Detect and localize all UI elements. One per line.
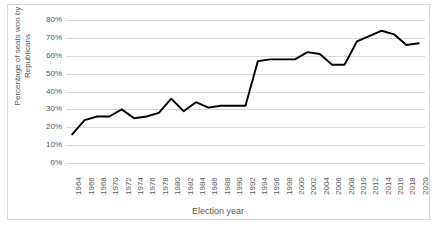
y-axis-tick-label: 30% (46, 105, 62, 113)
y-axis-tick-label: 50% (46, 70, 62, 78)
x-axis-tick-label: 2002 (310, 177, 318, 195)
y-axis-tick-label: 70% (46, 34, 62, 42)
gridline (66, 163, 425, 164)
y-axis-tick-label: 10% (46, 141, 62, 149)
plot-area (66, 20, 425, 163)
x-axis-tick-label: 1974 (137, 177, 145, 195)
x-axis-tick-label: 2018 (409, 177, 417, 195)
x-axis-tick-label: 1984 (199, 177, 207, 195)
x-axis-tick-label: 1976 (149, 177, 157, 195)
series-polyline (72, 31, 419, 135)
x-axis-tick-label: 2006 (335, 177, 343, 195)
x-axis-tick-label: 1966 (88, 177, 96, 195)
y-axis-tick-label: 0% (50, 159, 62, 167)
y-axis-tick-label: 80% (46, 16, 62, 24)
x-axis-tick-label: 1980 (174, 177, 182, 195)
x-axis-tick-label: 1982 (187, 177, 195, 195)
y-axis-tick-label: 40% (46, 88, 62, 96)
y-axis-tick-label: 60% (46, 52, 62, 60)
x-axis-tick-label: 1996 (273, 177, 281, 195)
x-axis-tick-label: 2000 (298, 177, 306, 195)
x-axis-tick-labels: 1964196619681970197219741976197819801982… (66, 165, 425, 205)
x-axis-tick-label: 2010 (360, 177, 368, 195)
x-axis-tick-label: 2008 (348, 177, 356, 195)
x-axis-tick-label: 1972 (125, 177, 133, 195)
y-axis-tick-label: 20% (46, 123, 62, 131)
x-axis-tick-label: 2004 (323, 177, 331, 195)
x-axis-tick-label: 2014 (385, 177, 393, 195)
x-axis-tick-label: 1968 (100, 177, 108, 195)
x-axis-tick-label: 1992 (249, 177, 257, 195)
x-axis-tick-label: 1994 (261, 177, 269, 195)
x-axis-tick-label: 2012 (372, 177, 380, 195)
x-axis-tick-label: 1990 (236, 177, 244, 195)
x-axis-tick-label: 2016 (397, 177, 405, 195)
x-axis-tick-label: 1978 (162, 177, 170, 195)
data-series-line (66, 20, 425, 163)
x-axis-title: Election year (0, 206, 436, 216)
x-axis-tick-label: 1964 (75, 177, 83, 195)
x-axis-tick-label: 1986 (211, 177, 219, 195)
chart-container: Percentage of seats won by Republicans 8… (0, 0, 436, 231)
x-axis-tick-label: 2020 (422, 177, 430, 195)
x-axis-tick-label: 1970 (112, 177, 120, 195)
y-axis-tick-labels: 80%70%60%50%40%30%20%10%0% (18, 0, 62, 231)
x-axis-tick-label: 1988 (224, 177, 232, 195)
x-axis-tick-label: 1998 (286, 177, 294, 195)
